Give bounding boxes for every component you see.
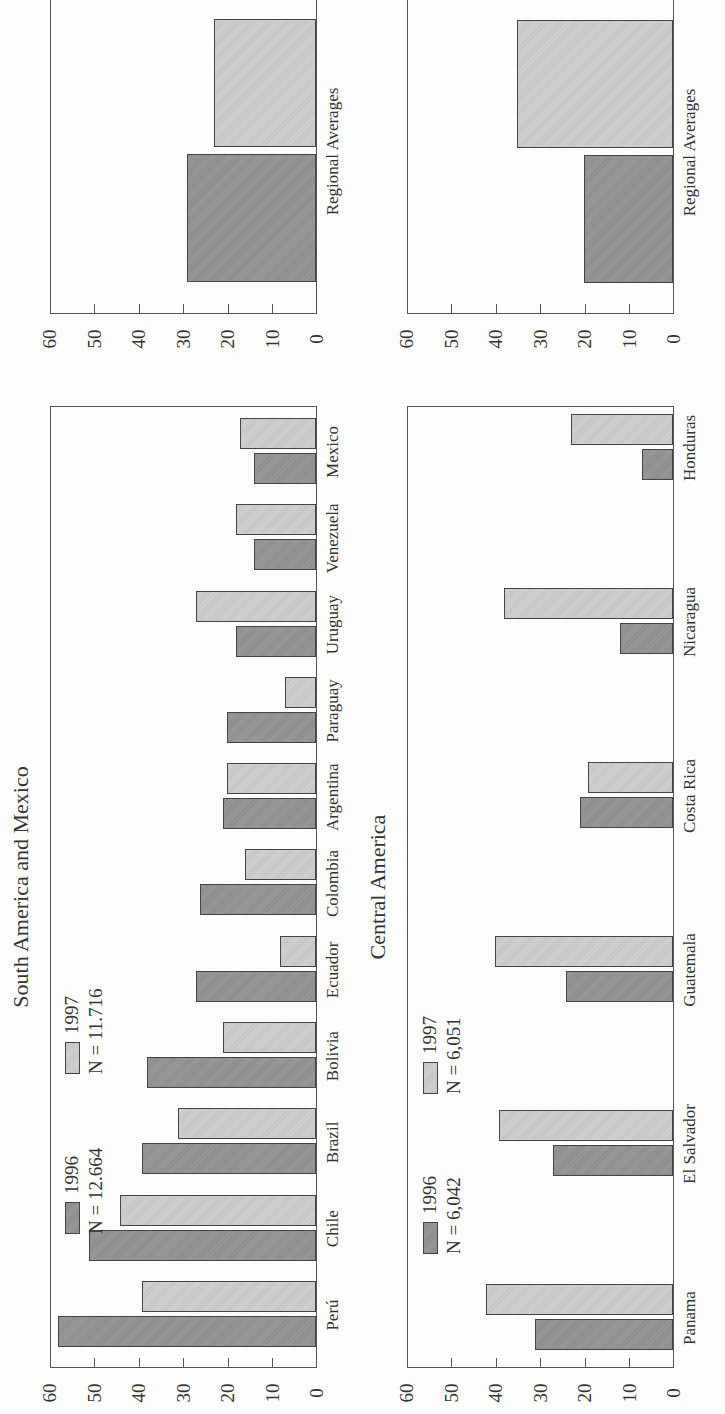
bar-1997 [214, 19, 316, 147]
bar-1996 [58, 1316, 316, 1347]
y-tick [228, 304, 229, 313]
category-label: Mexico [323, 382, 343, 522]
legend-swatch-1997 [65, 1042, 80, 1074]
bar-1997 [285, 677, 316, 708]
y-tick-label: 10 [262, 319, 284, 359]
y-tick-label: 60 [39, 319, 61, 359]
y-tick [540, 1358, 541, 1367]
bar-1997 [227, 763, 316, 794]
bar-1996 [620, 623, 673, 654]
y-tick-label: 40 [128, 319, 150, 359]
bar-1997 [223, 1022, 316, 1053]
legend-year: 1997 [420, 1016, 440, 1054]
y-tick-label: 40 [485, 1373, 507, 1413]
category-label: El Salvador [680, 1074, 700, 1214]
y-tick-label: 20 [574, 319, 596, 359]
y-tick [629, 304, 630, 313]
bar-1997 [495, 936, 673, 967]
y-tick [139, 304, 140, 313]
y-tick-label: 30 [173, 1373, 195, 1413]
bar-1997 [236, 504, 316, 535]
legend-year: 1997 [62, 996, 82, 1034]
bar-1996 [254, 453, 316, 484]
y-tick [94, 304, 95, 313]
legend-swatch-1996 [423, 1222, 438, 1254]
y-tick [496, 1358, 497, 1367]
bar-1997 [196, 591, 316, 622]
legend-swatch-1996 [65, 1202, 80, 1234]
category-label: Panama [680, 1248, 700, 1388]
y-tick [629, 1358, 630, 1367]
bar-1997 [504, 588, 673, 619]
bar-1996 [535, 1319, 673, 1350]
y-tick-label: 20 [217, 319, 239, 359]
bar-1997 [486, 1284, 673, 1315]
y-tick-label: 30 [173, 319, 195, 359]
bar-1997 [499, 1110, 673, 1141]
bar-1997 [245, 850, 316, 881]
category-label: Nicaragua [680, 552, 700, 692]
bar-1997 [571, 414, 673, 445]
category-label: Guatemala [680, 900, 700, 1040]
y-tick-label: 30 [530, 319, 552, 359]
legend-swatch-1997 [423, 1062, 438, 1094]
y-tick-label: 10 [619, 319, 641, 359]
legend-year: 1996 [62, 1156, 82, 1194]
chart-title: Central America [365, 406, 391, 1368]
y-tick [272, 1358, 273, 1367]
y-tick [183, 1358, 184, 1367]
y-tick [451, 1358, 452, 1367]
y-tick-label: 60 [396, 319, 418, 359]
chart-title: South America and Mexico [8, 406, 34, 1368]
y-tick-label: 20 [574, 1373, 596, 1413]
y-tick-label: 50 [441, 1373, 463, 1413]
bar-1997 [142, 1281, 316, 1312]
category-label: Regional Averages [323, 82, 343, 222]
category-label: Honduras [680, 378, 700, 518]
bar-1996 [142, 1143, 316, 1174]
y-tick [183, 304, 184, 313]
y-tick-label: 50 [84, 319, 106, 359]
plot-area-3 [407, 0, 674, 314]
plot-area-1 [50, 0, 317, 314]
bar-1996 [227, 712, 316, 743]
bar-1997 [120, 1195, 316, 1226]
bar-1997 [240, 418, 316, 449]
y-tick-label: 30 [530, 1373, 552, 1413]
legend-n: N = 11.716 [86, 989, 106, 1074]
y-tick [585, 1358, 586, 1367]
bar-1996 [584, 155, 673, 283]
bar-1996 [89, 1230, 316, 1261]
y-tick-label: 60 [396, 1373, 418, 1413]
y-tick-label: 40 [128, 1373, 150, 1413]
bar-1996 [196, 971, 316, 1002]
y-tick-label: 10 [619, 1373, 641, 1413]
y-tick [451, 304, 452, 313]
y-tick-label: 50 [84, 1373, 106, 1413]
legend-n: N = 12.664 [86, 1148, 106, 1234]
bar-1997 [517, 20, 673, 148]
y-tick-label: 0 [306, 319, 328, 359]
y-tick [272, 304, 273, 313]
y-tick-label: 0 [663, 319, 685, 359]
bar-1997 [178, 1108, 316, 1139]
bar-1997 [588, 762, 673, 793]
bar-1996 [187, 154, 316, 282]
y-tick-label: 10 [262, 1373, 284, 1413]
y-tick [228, 1358, 229, 1367]
y-tick-label: 40 [485, 319, 507, 359]
bar-1996 [566, 971, 673, 1002]
y-tick [585, 304, 586, 313]
y-tick [496, 304, 497, 313]
y-tick [540, 304, 541, 313]
bar-1996 [642, 449, 673, 480]
y-tick-label: 20 [217, 1373, 239, 1413]
legend-n: N = 6,051 [444, 1017, 464, 1094]
bar-1997 [280, 936, 316, 967]
legend-n: N = 6,042 [444, 1177, 464, 1254]
bar-1996 [200, 885, 316, 916]
y-tick [139, 1358, 140, 1367]
bar-1996 [254, 539, 316, 570]
bar-1996 [580, 797, 673, 828]
bar-1996 [553, 1145, 673, 1176]
